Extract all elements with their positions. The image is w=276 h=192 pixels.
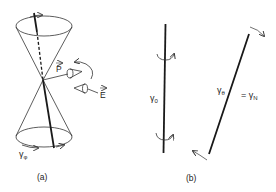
gammatheta-arrow-bottom [193,151,207,160]
p-vector-line [43,74,68,80]
gamma0-label: γ0 [150,93,159,104]
gammatheta-arrow-top [250,27,264,36]
figure-diagram: P E γφ (a) γ0 [0,0,276,192]
e-vector-line [88,89,98,93]
polarization-vector [43,69,82,80]
equals-gammaN-label: = γN [241,90,258,101]
gammatheta-label: γθ [217,85,226,96]
lower-cone-rim [16,127,72,147]
gamma-phi-label: γφ [19,149,28,160]
molecular-axis [34,13,54,148]
upper-cone [16,15,72,80]
e-label: E [100,90,106,100]
lower-cone-left-edge [16,80,43,136]
field-vector [74,84,98,93]
gamma0-axis-line [164,24,166,153]
panel-a: P E γφ (a) [16,13,106,182]
upper-cone-rim [16,16,72,36]
p-cone-body [70,69,82,78]
e-cone-base [83,84,88,93]
panel-b: γ0 γθ = γN (b) [150,24,264,183]
p-label: P [56,64,62,74]
panel-a-caption: (a) [37,172,48,182]
panel-b-caption: (b) [186,173,197,183]
axis-dashed-top [37,32,43,80]
